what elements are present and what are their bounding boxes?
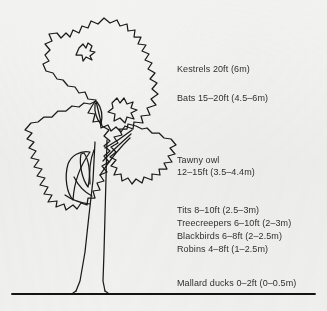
blackbirds-label-line-1: Blackbirds 6–8ft (2–2.5m) [177, 231, 282, 243]
tawny-owl-label-line-1: Tawny owl [177, 155, 255, 167]
tree-height-zones-diagram: Kestrels 20ft (6m) Bats 15–20ft (4.5–6m)… [0, 0, 327, 311]
blackbirds-label: Blackbirds 6–8ft (2–2.5m) [177, 231, 282, 243]
tits-label: Tits 8–10ft (2.5–3m) [177, 205, 259, 217]
robins-label-line-1: Robins 4–8ft (1–2.5m) [177, 244, 268, 256]
mallard-ducks-label: Mallard ducks 0–2ft (0–0.5m) [177, 278, 296, 290]
kestrels-label-line-1: Kestrels 20ft (6m) [177, 64, 250, 76]
treecreepers-label-line-1: Treecreepers 6–10ft (2–3m) [177, 218, 291, 230]
kestrels-label: Kestrels 20ft (6m) [177, 64, 250, 76]
tawny-owl-label-line-2: 12–15ft (3.5–4.4m) [177, 167, 255, 179]
labels-layer: Kestrels 20ft (6m) Bats 15–20ft (4.5–6m)… [0, 0, 327, 311]
tawny-owl-label: Tawny owl 12–15ft (3.5–4.4m) [177, 155, 255, 178]
bats-label-line-1: Bats 15–20ft (4.5–6m) [177, 93, 268, 105]
tits-label-line-1: Tits 8–10ft (2.5–3m) [177, 205, 259, 217]
treecreepers-label: Treecreepers 6–10ft (2–3m) [177, 218, 291, 230]
robins-label: Robins 4–8ft (1–2.5m) [177, 244, 268, 256]
bats-label: Bats 15–20ft (4.5–6m) [177, 93, 268, 105]
mallard-ducks-label-line-1: Mallard ducks 0–2ft (0–0.5m) [177, 278, 296, 290]
